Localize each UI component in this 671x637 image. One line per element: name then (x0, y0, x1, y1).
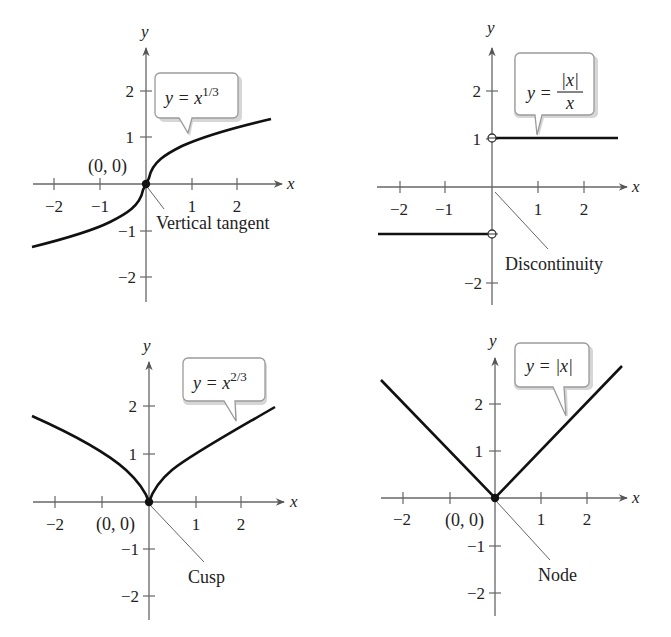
y-tick-label: −1 (118, 222, 136, 241)
x-tick-label: −2 (45, 197, 63, 216)
equation-lhs: y = (525, 83, 552, 103)
panel-absolute-value: −2 1 2 2 1 −1 −2 x y (0, 0) Node y = |x| (381, 331, 640, 616)
annotation-vertical-tangent: Vertical tangent (156, 213, 269, 233)
y-tick-label: 2 (126, 82, 135, 101)
figure-canvas: −2 −1 1 2 2 1 −1 −2 x y (0, 0) Vertical … (0, 0, 671, 637)
origin-point (491, 494, 499, 502)
equation-label: y = |x| (524, 356, 573, 376)
x-axis-label: x (289, 492, 298, 511)
y-tick-label: −2 (467, 584, 485, 603)
x-axis-label: x (631, 177, 640, 196)
annotation-discontinuity: Discontinuity (505, 254, 603, 274)
x-tick-label: −1 (435, 200, 453, 219)
panel-cube-root: −2 −1 1 2 2 1 −1 −2 x y (0, 0) Vertical … (32, 22, 295, 302)
x-tick-label: −2 (390, 200, 408, 219)
y-axis-label: y (485, 18, 495, 37)
y-tick-label: −2 (121, 587, 139, 606)
origin-point (145, 498, 153, 506)
y-axis-label: y (139, 22, 149, 41)
origin-label: (0, 0) (445, 510, 484, 531)
x-tick-label: 2 (583, 510, 592, 529)
y-tick-label: −1 (467, 537, 485, 556)
x-tick-label: 1 (192, 515, 201, 534)
x-tick-label: 1 (534, 200, 543, 219)
annotation-leader (148, 188, 164, 209)
y-tick-label: 1 (126, 128, 135, 147)
origin-label: (0, 0) (96, 514, 135, 535)
y-tick-label: −2 (464, 274, 482, 293)
x-axis-label: x (631, 488, 640, 507)
y-tick-label: 1 (475, 442, 484, 461)
y-tick-label: −2 (118, 268, 136, 287)
equation-numerator: |x| (561, 70, 579, 90)
origin-point (142, 180, 150, 188)
y-tick-label: 2 (129, 397, 138, 416)
equation-denominator: x (565, 93, 574, 113)
x-tick-label: −2 (393, 510, 411, 529)
y-tick-label: 2 (473, 82, 482, 101)
x-tick-label: 2 (237, 515, 246, 534)
y-tick-label: 1 (473, 130, 482, 149)
x-tick-label: 2 (580, 200, 589, 219)
x-tick-label: −1 (91, 197, 109, 216)
y-tick-label: 2 (475, 395, 484, 414)
x-axis-label: x (286, 174, 295, 193)
origin-label: (0, 0) (88, 156, 127, 177)
y-tick-label: 1 (129, 445, 138, 464)
panel-two-thirds-power: −2 1 2 2 1 −1 −2 x y (0, 0) Cusp y = x2/… (32, 336, 298, 620)
y-axis-label: y (487, 331, 497, 350)
y-tick-label: −1 (121, 540, 139, 559)
x-tick-label: −2 (46, 515, 64, 534)
y-axis-label: y (141, 336, 151, 355)
annotation-cusp: Cusp (188, 567, 225, 587)
equation-callout (515, 343, 589, 416)
x-tick-label: 1 (537, 510, 546, 529)
panel-sign-function: −2 −1 1 2 2 1 −2 x y Discontinuity y = |… (377, 18, 640, 305)
annotation-node: Node (538, 565, 577, 585)
